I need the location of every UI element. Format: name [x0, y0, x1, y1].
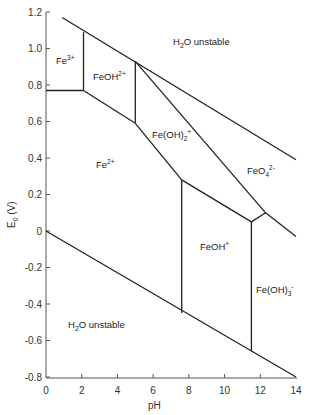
- x-tick-label: 4: [115, 385, 121, 396]
- x-tick-label: 2: [79, 385, 85, 396]
- x-axis-title: pH: [148, 400, 161, 411]
- y-axis-title: E0 (V): [6, 201, 19, 228]
- x-tick-label: 0: [43, 385, 49, 396]
- y-tick-label: 0.8: [28, 80, 42, 91]
- x-tick-label: 6: [150, 385, 156, 396]
- boundary-line: [84, 91, 136, 124]
- x-tick-label: 12: [255, 385, 267, 396]
- boundary-line: [46, 231, 296, 377]
- label-feohplus: FeOH+: [200, 240, 229, 252]
- y-tick-label: -0.2: [25, 262, 43, 273]
- label-feoh3-minus: Fe(OH)3-: [256, 283, 293, 297]
- x-tick-label: 14: [290, 385, 302, 396]
- label-fe3plus: Fe3+: [56, 54, 75, 66]
- boundary-line: [266, 213, 296, 237]
- boundary-line: [251, 213, 265, 222]
- y-tick-label: -0.6: [25, 335, 43, 346]
- label-feoh2-plus: Fe(OH)2+: [152, 128, 191, 142]
- label-feo4-2minus: FeO42-: [247, 164, 275, 178]
- y-tick-label: 0: [36, 226, 42, 237]
- pourbaix-diagram: 1.21.00.80.60.40.20-0.2-0.4-0.6-0.8 0246…: [0, 0, 310, 415]
- label-h2o-unstable-bottom: H2O unstable: [68, 319, 125, 332]
- y-tick-label: 1.0: [28, 43, 42, 54]
- y-tick-label: 0.6: [28, 116, 42, 127]
- y-tick-label: 1.2: [28, 7, 42, 18]
- x-tick-label: 8: [186, 385, 192, 396]
- y-tick-label: 0.2: [28, 189, 42, 200]
- x-tick-label: 10: [219, 385, 231, 396]
- y-tick-label: -0.4: [25, 299, 43, 310]
- y-tick-label: 0.4: [28, 153, 42, 164]
- label-h2o-unstable-top: H2O unstable: [173, 36, 230, 49]
- y-tick-label: -0.8: [25, 372, 43, 383]
- label-fe2plus: Fe2+: [96, 158, 115, 170]
- x-ticks: 02468101214: [43, 374, 302, 396]
- region-labels: H2O unstable Fe3+ FeOH2+ Fe(OH)2+ FeO42-…: [56, 36, 293, 332]
- boundary-line: [182, 180, 252, 222]
- label-feoh2plus: FeOH2+: [93, 70, 126, 82]
